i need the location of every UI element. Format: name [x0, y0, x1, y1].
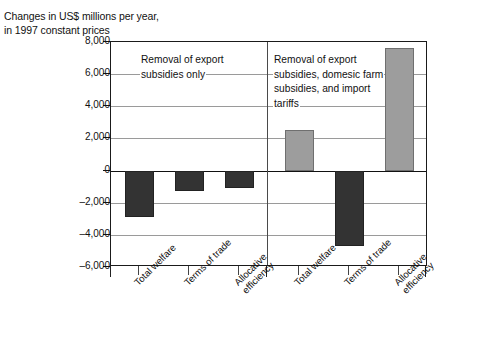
- y-tick-mark--4000: [103, 234, 110, 235]
- y-tick-mark-2000: [103, 137, 110, 138]
- y-tick-mark--6000: [103, 266, 110, 267]
- bar-p2-allocative-efficiency: [385, 48, 414, 170]
- annotation-right-panel: Removal of exportsubsidies, domesic farm…: [273, 53, 384, 111]
- x-tick-major-1: [110, 266, 111, 277]
- y-tick-mark-6000: [103, 73, 110, 74]
- chart-title: Changes in US$ millions per year, in 199…: [4, 10, 159, 37]
- bar-p1-terms-of-trade: [175, 171, 204, 192]
- zero-line: [111, 171, 426, 172]
- y-tick-mark-0: [103, 170, 110, 171]
- bar-p2-total-welfare: [285, 130, 314, 170]
- y-tick-mark-4000: [103, 105, 110, 106]
- annotation-left-panel: Removal of exportsubsidies only: [140, 53, 225, 82]
- gridline--2000: [111, 203, 426, 204]
- gridline--4000: [111, 235, 426, 236]
- y-tick-mark-8000: [103, 41, 110, 42]
- bar-p1-allocative-efficiency: [225, 171, 254, 189]
- chart-figure: Changes in US$ millions per year, in 199…: [0, 0, 492, 339]
- gridline-2000: [111, 138, 426, 139]
- bar-p1-total-welfare: [125, 171, 154, 218]
- panel-divider: [267, 42, 268, 265]
- bar-p2-terms-of-trade: [335, 171, 364, 247]
- y-tick-mark--2000: [103, 202, 110, 203]
